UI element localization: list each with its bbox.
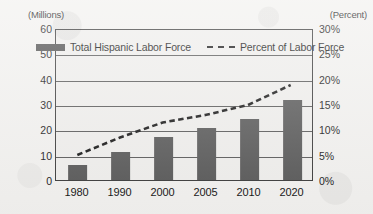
right-axis-tick: 0% bbox=[319, 175, 334, 187]
right-axis-tick: 15% bbox=[319, 99, 340, 111]
x-axis-tick: 1990 bbox=[107, 186, 131, 198]
x-axis-tick: 2020 bbox=[279, 186, 303, 198]
x-axis-tick: 2000 bbox=[150, 186, 174, 198]
left-axis-tick: 30 bbox=[40, 99, 52, 111]
chart-legend: Total Hispanic Labor Force Percent of La… bbox=[36, 41, 344, 53]
left-axis-tick: 40 bbox=[40, 74, 52, 86]
right-axis-tick: 20% bbox=[319, 74, 340, 86]
left-axis-tick: 60 bbox=[40, 23, 52, 35]
left-axis-tick: 20 bbox=[40, 124, 52, 136]
right-axis-unit-label: (Percent) bbox=[330, 9, 367, 20]
right-axis-tick: 5% bbox=[319, 150, 334, 162]
right-axis-tick: 30% bbox=[319, 23, 340, 35]
left-axis-tick: 0 bbox=[46, 175, 52, 187]
legend-entry-percent-of-labor-force: Percent of Labor Force bbox=[207, 41, 344, 53]
chart-screenshot: (Millions) (Percent) 0102030405060 0%5%1… bbox=[0, 0, 373, 214]
legend-entry-total-hispanic-labor-force: Total Hispanic Labor Force bbox=[36, 41, 191, 53]
dashed-line-icon bbox=[207, 46, 235, 48]
x-axis-tick: 2005 bbox=[193, 186, 217, 198]
x-axis-tick: 2010 bbox=[236, 186, 260, 198]
legend-label-bar: Total Hispanic Labor Force bbox=[70, 41, 191, 53]
x-axis-tick: 1980 bbox=[64, 186, 88, 198]
legend-label-line: Percent of Labor Force bbox=[240, 41, 344, 53]
right-axis-tick: 10% bbox=[319, 124, 340, 136]
bar-swatch-icon bbox=[36, 44, 65, 51]
left-axis-tick: 10 bbox=[40, 150, 52, 162]
left-axis-unit-label: (Millions) bbox=[28, 9, 64, 20]
